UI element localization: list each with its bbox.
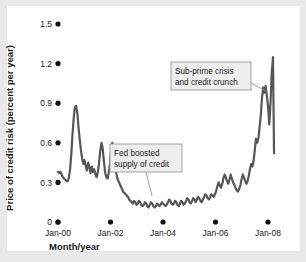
y-tick-label: 1.2 [40, 59, 52, 69]
x-tick-label: Jan-02 [98, 228, 124, 238]
x-tick-dot [160, 219, 165, 224]
y-tick-dot [55, 61, 60, 66]
x-tick-label: Jan-00 [45, 228, 71, 238]
y-tick-dot [55, 180, 60, 185]
y-tick-label: 0.6 [40, 138, 52, 148]
y-axis-title: Price of credit risk (percent per year) [4, 45, 15, 211]
annotation-subprime-text-line: and credit crunch [175, 78, 238, 87]
credit-risk-line-chart: 00.30.60.91.21.5 Jan-00Jan-02Jan-04Jan-0… [0, 0, 306, 262]
figure-container: 00.30.60.91.21.5 Jan-00Jan-02Jan-04Jan-0… [0, 0, 306, 262]
y-tick-dot [55, 21, 60, 26]
annotation-leader-line [146, 172, 152, 196]
x-axis-tick-labels: Jan-00Jan-02Jan-04Jan-06Jan-08 [45, 228, 281, 238]
x-axis-title: Month/year [49, 241, 100, 252]
y-tick-label: 0 [47, 217, 52, 227]
x-tick-dot [55, 219, 60, 224]
y-tick-dot [55, 140, 60, 145]
y-axis-tick-marks [55, 21, 60, 224]
x-tick-label: Jan-08 [255, 228, 281, 238]
x-tick-label: Jan-06 [203, 228, 229, 238]
x-tick-label: Jan-04 [150, 228, 176, 238]
annotation-fed-text-line: supply of credit [114, 160, 170, 169]
annotation-subprime-text-line: Sub-prime crisis [175, 67, 234, 76]
y-axis-tick-labels: 00.30.60.91.21.5 [40, 19, 52, 227]
y-tick-label: 1.5 [40, 19, 52, 29]
annotation-fed-text-line: Fed boosted [114, 149, 160, 158]
x-tick-dot [213, 219, 218, 224]
x-axis-tick-marks [55, 219, 270, 224]
y-tick-dot [55, 101, 60, 106]
x-tick-dot [108, 219, 113, 224]
x-tick-dot [265, 219, 270, 224]
y-tick-label: 0.9 [40, 98, 52, 108]
y-tick-label: 0.3 [40, 178, 52, 188]
